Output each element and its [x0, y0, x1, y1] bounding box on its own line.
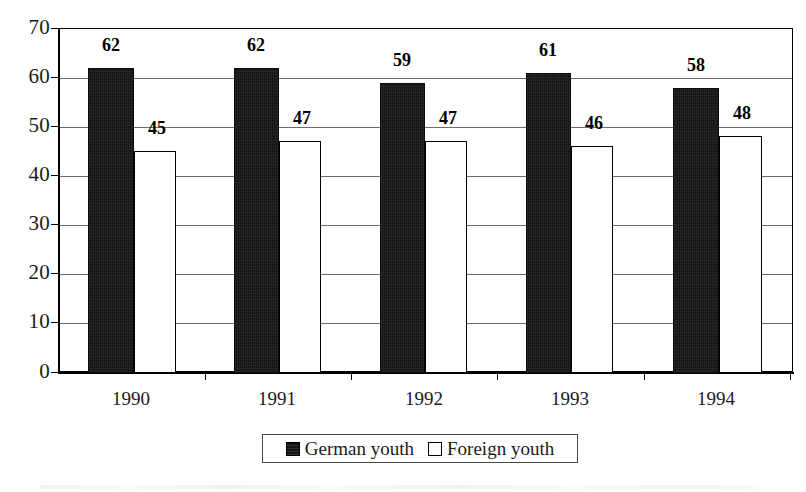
- x-axis-label-1992: 1992: [405, 388, 443, 410]
- legend-entry-german-youth: German youth: [286, 439, 414, 458]
- y-tick-0: [51, 372, 58, 373]
- gridline-50: [59, 127, 792, 128]
- outlined-square-icon: [428, 442, 442, 456]
- chart-legend: German youth Foreign youth: [262, 434, 578, 463]
- gridline-10: [59, 323, 792, 324]
- y-axis-label-10: 10: [6, 311, 50, 332]
- y-axis-label-60: 60: [6, 66, 50, 87]
- legend-label-german-youth: German youth: [305, 439, 414, 458]
- x-axis-label-1993: 1993: [551, 388, 589, 410]
- legend-label-foreign-youth: Foreign youth: [447, 439, 554, 458]
- y-axis-label-70: 70: [6, 17, 50, 38]
- x-axis-label-1991: 1991: [258, 388, 296, 410]
- y-tick-70: [51, 28, 58, 29]
- y-tick-60: [51, 77, 58, 78]
- y-tick-10: [51, 322, 58, 323]
- x-tick-1992: [497, 373, 498, 380]
- y-tick-50: [51, 126, 58, 127]
- y-axis-line: [58, 28, 60, 373]
- bar-chart-figure: 70 60 50 40 30 20 10 0 62 45 62 47 59 47…: [0, 0, 806, 492]
- legend-entry-foreign-youth: Foreign youth: [428, 439, 554, 458]
- y-tick-20: [51, 273, 58, 274]
- x-tick-1991: [351, 373, 352, 380]
- x-tick-1990: [205, 373, 206, 380]
- y-axis-label-0: 0: [6, 361, 50, 382]
- y-axis-labels: 70 60 50 40 30 20 10 0: [0, 0, 50, 492]
- y-axis-label-40: 40: [6, 164, 50, 185]
- gridline-60: [59, 78, 792, 79]
- x-tick-1993: [644, 373, 645, 380]
- y-axis-label-20: 20: [6, 262, 50, 283]
- y-axis-label-30: 30: [6, 213, 50, 234]
- x-axis-label-1994: 1994: [697, 388, 735, 410]
- x-tick-1994: [790, 373, 791, 380]
- y-axis-label-50: 50: [6, 115, 50, 136]
- scan-artifact: [40, 485, 760, 489]
- x-axis-label-1990: 1990: [112, 388, 150, 410]
- gridline-40: [59, 176, 792, 177]
- filled-square-icon: [286, 442, 300, 456]
- x-axis-line: [58, 372, 794, 374]
- y-tick-40: [51, 175, 58, 176]
- gridline-20: [59, 274, 792, 275]
- y-tick-30: [51, 224, 58, 225]
- gridline-30: [59, 225, 792, 226]
- plot-area: [58, 28, 793, 372]
